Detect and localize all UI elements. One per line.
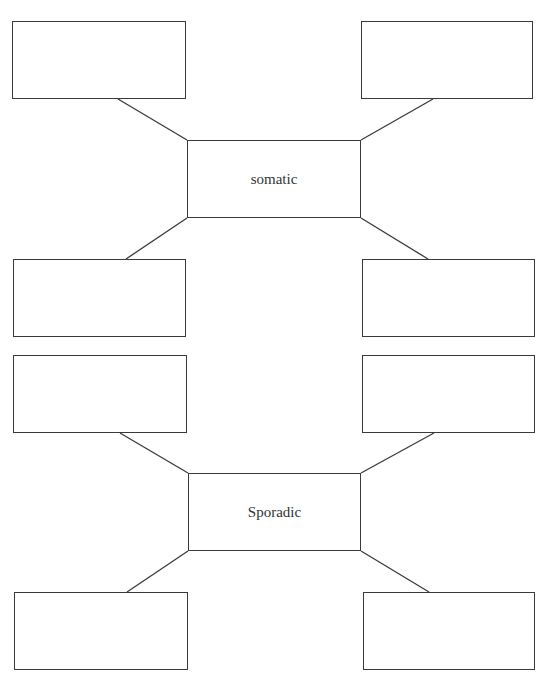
- leaf-box-sporadic-bottom-right: [363, 592, 535, 670]
- leaf-box-somatic-bottom-left: [13, 259, 186, 337]
- leaf-box-somatic-top-right: [361, 21, 533, 99]
- connector-line: [127, 551, 188, 592]
- connector-line: [120, 433, 188, 473]
- center-box-sporadic: Sporadic: [188, 473, 361, 551]
- leaf-box-sporadic-bottom-left: [14, 592, 188, 670]
- leaf-box-sporadic-top-left: [13, 355, 187, 433]
- leaf-box-sporadic-top-right: [362, 355, 535, 433]
- leaf-box-somatic-bottom-right: [362, 259, 535, 337]
- leaf-box-somatic-top-left: [12, 21, 186, 99]
- spider-diagram: somatic Sporadic: [0, 0, 545, 677]
- connector-line: [126, 218, 187, 259]
- center-label-somatic: somatic: [251, 171, 298, 188]
- center-box-somatic: somatic: [187, 140, 361, 218]
- connector-lines: [0, 0, 545, 677]
- connector-line: [361, 218, 428, 259]
- center-label-sporadic: Sporadic: [248, 504, 301, 521]
- connector-line: [361, 433, 434, 473]
- connector-line: [118, 99, 187, 140]
- connector-line: [361, 99, 433, 140]
- connector-line: [361, 551, 429, 592]
